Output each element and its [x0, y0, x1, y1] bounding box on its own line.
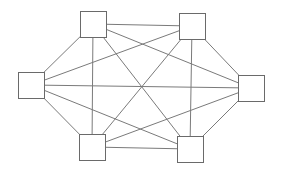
node-top-left: [81, 12, 107, 38]
node-top-right: [180, 14, 206, 40]
edge-left-to-bottom-right: [31, 85, 190, 149]
edge-bottom-left-to-bottom-right: [92, 147, 190, 149]
node-left: [19, 73, 45, 99]
mesh-network-diagram: [0, 0, 283, 174]
node-bottom-left: [80, 135, 106, 161]
edge-layer: [31, 24, 251, 149]
node-right: [239, 76, 265, 102]
node-bottom-right: [178, 137, 204, 163]
edge-top-left-to-top-right: [93, 24, 192, 26]
